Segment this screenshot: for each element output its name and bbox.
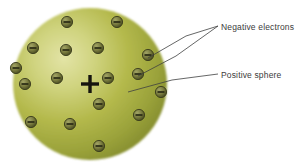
electron-minus-bar bbox=[28, 121, 35, 123]
electron bbox=[61, 16, 72, 27]
electron bbox=[60, 44, 71, 55]
electron bbox=[142, 49, 153, 60]
electron-minus-bar bbox=[64, 21, 71, 23]
figure-canvas: Negative electrons Positive sphere bbox=[0, 0, 308, 168]
electron bbox=[111, 16, 122, 27]
electron-minus-bar bbox=[54, 77, 61, 79]
electron-minus-bar bbox=[105, 77, 112, 79]
electron-minus-bar bbox=[67, 123, 74, 125]
electron-minus-bar bbox=[13, 67, 20, 69]
electron bbox=[93, 140, 104, 151]
electron bbox=[93, 98, 104, 109]
electron-minus-bar bbox=[30, 47, 37, 49]
electron-minus-bar bbox=[63, 49, 70, 51]
electron bbox=[92, 42, 103, 53]
electron bbox=[19, 78, 30, 89]
electron bbox=[133, 109, 144, 120]
electron-minus-bar bbox=[95, 47, 102, 49]
label-negative-electrons: Negative electrons bbox=[221, 22, 294, 32]
electron-minus-bar bbox=[158, 91, 165, 93]
electron-minus-bar bbox=[96, 145, 103, 147]
electron-minus-bar bbox=[114, 21, 121, 23]
electron bbox=[64, 118, 75, 129]
electron bbox=[25, 116, 36, 127]
electron bbox=[27, 42, 38, 53]
electron bbox=[155, 86, 166, 97]
electron-minus-bar bbox=[96, 103, 103, 105]
electron bbox=[10, 62, 21, 73]
electron-minus-bar bbox=[136, 114, 143, 116]
electron bbox=[102, 72, 113, 83]
electron bbox=[51, 72, 62, 83]
label-positive-sphere: Positive sphere bbox=[221, 70, 281, 80]
electron-minus-bar bbox=[22, 83, 29, 85]
electron-minus-bar bbox=[145, 54, 152, 56]
